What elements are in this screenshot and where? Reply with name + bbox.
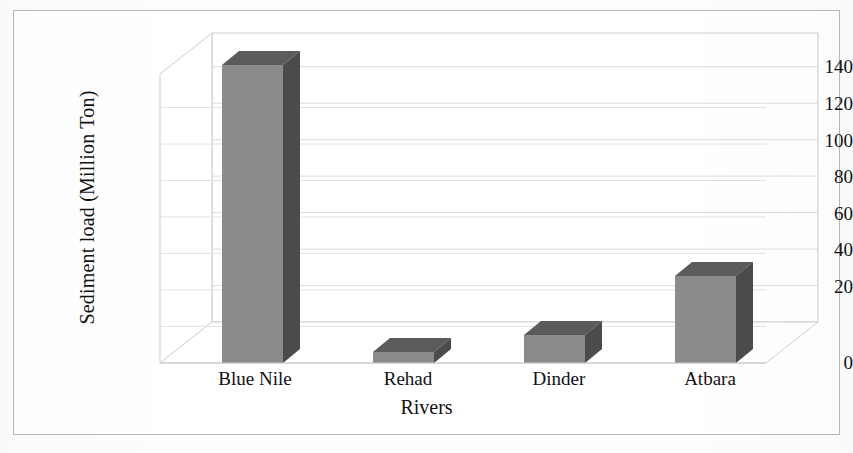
left-side-wall	[160, 33, 212, 363]
x-tick-blue-nile: Blue Nile	[190, 368, 320, 390]
bar-blue-nile-side	[283, 51, 300, 363]
x-tick-atbara: Atbara	[645, 368, 775, 390]
x-tick-dinder: Dinder	[494, 368, 624, 390]
chart-screenshot: 140 120 100 80 60 40 20 0 Blue Nile Reha…	[0, 0, 853, 453]
bar-atbara-front	[675, 276, 736, 363]
bar-rehad-front	[373, 352, 434, 363]
bar-blue-nile-front	[222, 65, 283, 363]
bar-dinder[interactable]	[524, 321, 602, 363]
x-axis-title: Rivers	[0, 396, 853, 419]
bar-atbara[interactable]	[675, 262, 753, 363]
y-axis-title: Sediment load (Million Ton)	[76, 58, 99, 358]
x-tick-rehad: Rehad	[343, 368, 473, 390]
bar-dinder-front	[524, 335, 585, 363]
bar-atbara-side	[736, 262, 753, 363]
bar-blue-nile[interactable]	[222, 51, 300, 363]
